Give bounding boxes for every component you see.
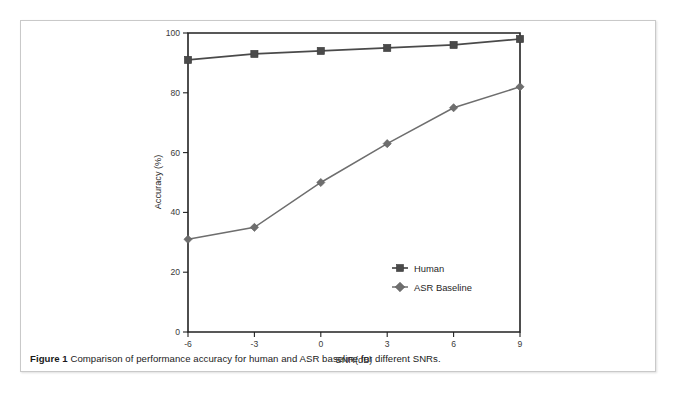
- data-point-human-0: [317, 47, 324, 54]
- chart-plot-area: 0 20 40 60 80 100 -6 -3 0 3 6 9: [0, 0, 679, 397]
- x-tick-label-0: 0: [318, 339, 323, 349]
- x-tick-label--3: -3: [251, 339, 259, 349]
- data-point-asr-baseline-9: [516, 83, 524, 91]
- x-axis-ticks: -6 -3 0 3 6 9: [184, 332, 522, 349]
- legend-marker-asr-baseline: [395, 282, 405, 292]
- x-tick-label--6: -6: [184, 339, 192, 349]
- y-axis-title: Accuracy (%): [153, 155, 163, 210]
- series-asr-baseline: [184, 83, 524, 244]
- y-tick-label-40: 40: [170, 207, 180, 217]
- x-tick-label-6: 6: [451, 339, 456, 349]
- data-point-asr-baseline--6: [184, 235, 192, 243]
- legend-marker-human: [397, 265, 404, 272]
- y-tick-label-0: 0: [175, 327, 180, 337]
- x-tick-label-3: 3: [385, 339, 390, 349]
- data-point-asr-baseline--3: [250, 223, 258, 231]
- data-point-asr-baseline-0: [317, 178, 325, 186]
- series-human: [184, 35, 523, 63]
- data-point-human--6: [184, 56, 191, 63]
- data-point-human-3: [384, 44, 391, 51]
- data-point-asr-baseline-6: [450, 104, 458, 112]
- figure-caption-label: Figure 1: [30, 353, 68, 364]
- y-tick-label-60: 60: [170, 148, 180, 158]
- data-point-asr-baseline-3: [383, 140, 391, 148]
- figure-caption-text: Comparison of performance accuracy for h…: [70, 353, 440, 364]
- accuracy-vs-snr-chart: 0 20 40 60 80 100 -6 -3 0 3 6 9: [0, 0, 679, 397]
- data-point-human-6: [450, 41, 457, 48]
- legend-label-human: Human: [414, 263, 444, 274]
- y-tick-label-20: 20: [170, 267, 180, 277]
- data-point-human-9: [516, 35, 523, 42]
- figure-page: 0 20 40 60 80 100 -6 -3 0 3 6 9: [0, 0, 679, 397]
- y-axis-ticks: 0 20 40 60 80 100: [166, 28, 188, 337]
- figure-caption: Figure 1 Comparison of performance accur…: [30, 352, 640, 365]
- legend-label-asr-baseline: ASR Baseline: [414, 282, 472, 293]
- x-tick-label-9: 9: [518, 339, 523, 349]
- data-point-human--3: [251, 50, 258, 57]
- y-tick-label-80: 80: [170, 88, 180, 98]
- chart-legend: Human ASR Baseline: [392, 263, 472, 293]
- y-tick-label-100: 100: [166, 28, 181, 38]
